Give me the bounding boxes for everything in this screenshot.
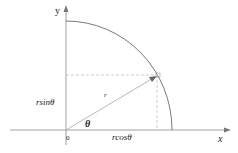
x-axis-label: x xyxy=(217,133,223,144)
radius-line xyxy=(66,77,155,130)
x-axis-arrow-icon xyxy=(224,128,231,133)
y-axis-arrow-icon xyxy=(64,5,69,12)
radius-label: r xyxy=(104,91,107,99)
origin-label: 0 xyxy=(66,134,70,142)
polar-diagram: y x 0 r θ rsinθ rcosθ xyxy=(0,0,238,153)
rcos-label: rcosθ xyxy=(112,132,132,142)
rsin-label: rsinθ xyxy=(36,97,55,107)
y-axis-label: y xyxy=(55,5,60,16)
angle-label: θ xyxy=(85,118,91,129)
